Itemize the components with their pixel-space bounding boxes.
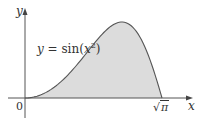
function-label: y = sin(x2) bbox=[37, 42, 100, 55]
sqrt-pi-tick-label: √π bbox=[153, 102, 169, 113]
chart-plot bbox=[0, 0, 213, 124]
function-label-var: x bbox=[84, 42, 91, 56]
function-label-eq: = sin( bbox=[44, 42, 84, 56]
function-label-close: ) bbox=[96, 42, 101, 56]
function-label-lhs: y bbox=[37, 42, 44, 56]
radical-sign: √ bbox=[153, 101, 160, 114]
y-axis-label: y bbox=[16, 5, 23, 17]
y-axis-arrow-icon bbox=[23, 8, 28, 15]
pi-symbol: π bbox=[160, 100, 169, 114]
shaded-area bbox=[25, 22, 162, 98]
x-axis-label: x bbox=[188, 100, 195, 112]
origin-label: 0 bbox=[16, 101, 23, 112]
